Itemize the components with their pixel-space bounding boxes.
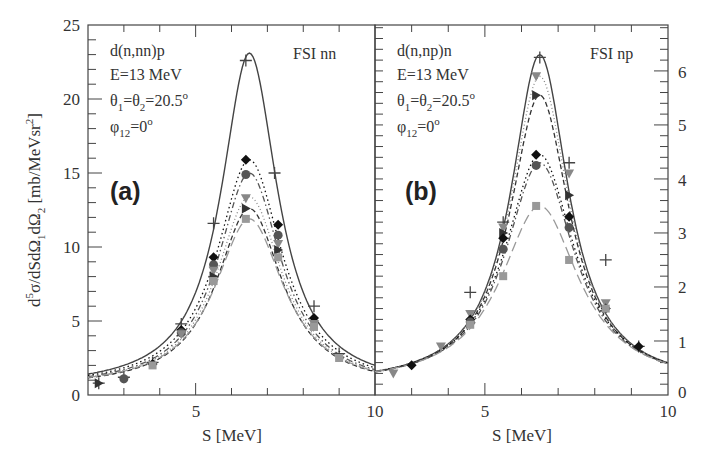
svg-text:4: 4 xyxy=(678,171,687,190)
marker-circle-icon xyxy=(532,161,541,170)
marker-plus-icon xyxy=(208,217,220,229)
svg-text:5: 5 xyxy=(481,402,490,421)
svg-text:θ1=θ2=20.5o: θ1=θ2=20.5o xyxy=(397,89,475,113)
marker-square-icon xyxy=(602,305,610,313)
panel-a-x-tick-labels: 5 10 xyxy=(192,402,384,421)
curve-tri-right xyxy=(88,209,375,378)
marker-diamond-icon xyxy=(241,155,251,165)
svg-text:10: 10 xyxy=(63,238,80,257)
marker-square-icon xyxy=(532,202,540,210)
marker-plus-icon xyxy=(308,300,320,312)
panel-b-x-axis-title: S [MeV] xyxy=(492,426,552,445)
svg-text:5: 5 xyxy=(72,312,81,331)
chart-figure: d5σ/dSdΩ1dΩ2 [mb/MeVsr2] 25 20 15 10 5 0… xyxy=(0,0,705,460)
marker-circle-icon xyxy=(241,170,250,179)
svg-text:20: 20 xyxy=(63,90,80,109)
marker-square-icon xyxy=(149,361,157,369)
marker-circle-icon xyxy=(499,245,508,254)
panel-a: 25 20 15 10 5 0 5 10 S [MeV] d(n,nn)p E=… xyxy=(63,16,384,445)
svg-text:d5σ/dSdΩ1dΩ2 [mb/MeVsr2]: d5σ/dSdΩ1dΩ2 [mb/MeVsr2] xyxy=(23,113,47,307)
svg-text:E=13 MeV: E=13 MeV xyxy=(397,66,469,83)
svg-text:15: 15 xyxy=(63,164,80,183)
svg-text:5: 5 xyxy=(192,402,201,421)
marker-tri-down-icon xyxy=(388,369,398,378)
marker-plus-icon xyxy=(600,254,612,266)
marker-circle-icon xyxy=(274,231,283,240)
panel-a-fsi-label: FSI nn xyxy=(293,45,336,62)
marker-square-icon xyxy=(499,272,507,280)
panel-b-annotations: d(n,np)n E=13 MeV θ1=θ2=20.5o φ12=0o FSI… xyxy=(397,42,633,205)
svg-text:2: 2 xyxy=(678,278,687,297)
svg-text:5: 5 xyxy=(678,116,687,135)
svg-text:φ12=0o: φ12=0o xyxy=(397,115,440,139)
marker-square-icon xyxy=(565,256,573,264)
panel-a-label: (a) xyxy=(110,177,141,205)
marker-plus-icon xyxy=(240,55,252,67)
marker-tri-right-icon xyxy=(242,204,251,214)
panel-b-x-tick-labels: 5 10 xyxy=(481,402,677,421)
svg-text:φ12=0o: φ12=0o xyxy=(110,115,153,139)
curve-square xyxy=(88,219,375,378)
panel-b: 6 5 4 3 2 1 0 5 10 S [MeV] d(n,np)n E=13… xyxy=(375,25,687,445)
panel-b-fsi-label: FSI np xyxy=(590,45,633,63)
svg-text:0: 0 xyxy=(72,386,81,405)
curve-square xyxy=(375,206,668,372)
marker-square-icon xyxy=(335,354,343,362)
svg-text:3: 3 xyxy=(678,224,687,243)
svg-text:1: 1 xyxy=(678,333,687,352)
marker-square-icon xyxy=(466,321,474,329)
panel-a-y-tick-labels: 25 20 15 10 5 0 xyxy=(63,16,80,405)
marker-plus-icon xyxy=(534,51,546,63)
marker-square-icon xyxy=(242,215,250,223)
svg-text:θ1=θ2=20.5o: θ1=θ2=20.5o xyxy=(110,89,188,113)
marker-plus-icon xyxy=(269,167,281,179)
y-axis-title: d5σ/dSdΩ1dΩ2 [mb/MeVsr2] xyxy=(23,113,47,307)
marker-diamond-icon xyxy=(531,150,541,160)
marker-diamond-icon xyxy=(273,220,283,230)
marker-tri-down-icon xyxy=(241,194,251,203)
marker-plus-icon xyxy=(464,286,476,298)
marker-circle-icon xyxy=(119,374,128,383)
marker-square-icon xyxy=(274,253,282,261)
marker-square-icon xyxy=(210,277,218,285)
marker-tri-right-icon xyxy=(532,90,541,100)
svg-text:E=13 MeV: E=13 MeV xyxy=(110,66,182,83)
svg-text:0: 0 xyxy=(678,383,687,402)
svg-text:d(n,np)n: d(n,np)n xyxy=(397,42,452,60)
panel-b-y-tick-labels: 6 5 4 3 2 1 0 xyxy=(678,63,687,402)
panel-a-x-axis-title: S [MeV] xyxy=(202,426,262,445)
svg-text:10: 10 xyxy=(660,402,677,421)
marker-square-icon xyxy=(310,323,318,331)
marker-circle-icon xyxy=(565,223,574,232)
svg-text:10: 10 xyxy=(367,402,384,421)
svg-text:25: 25 xyxy=(63,16,80,35)
curve-tri-right xyxy=(375,95,668,372)
svg-text:d(n,nn)p: d(n,nn)p xyxy=(110,42,165,60)
svg-text:6: 6 xyxy=(678,63,687,82)
panel-b-label: (b) xyxy=(405,177,437,205)
